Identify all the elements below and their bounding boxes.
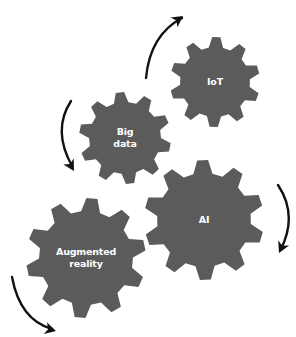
arrow-right-icon [278, 185, 289, 249]
gear-label-iot: IoT [207, 76, 223, 88]
gears-layer [27, 37, 263, 318]
gears-diagram: IoT Big data AI Augmented reality [0, 0, 296, 337]
gear-label-ai: AI [199, 214, 210, 226]
gear-label-augmented-reality: Augmented reality [56, 246, 116, 270]
arrowhead-icon [44, 322, 58, 336]
arrow-left-icon [62, 101, 72, 166]
arrowhead-icon [274, 240, 290, 255]
gear-label-big-data: Big data [113, 126, 136, 150]
arrowhead-icon [63, 158, 79, 174]
diagram-canvas [0, 0, 296, 337]
arrow-bottom-icon [12, 277, 52, 329]
